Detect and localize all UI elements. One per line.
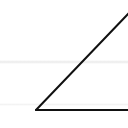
- triangle-diagram: [0, 0, 128, 128]
- triangle-hypotenuse: [36, 13, 128, 110]
